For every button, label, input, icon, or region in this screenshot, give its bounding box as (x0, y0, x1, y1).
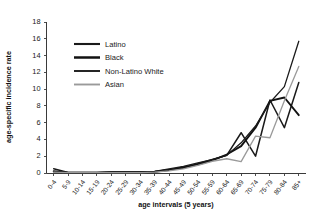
x-tick-label: 35-39 (143, 178, 159, 196)
y-axis-title: age-specific incidence rate (4, 51, 13, 143)
x-tick-label: 0-4 (46, 178, 58, 190)
y-tick-label: 6 (36, 118, 40, 127)
x-tick-label: 65-69 (229, 178, 245, 196)
x-tick-label: 45-49 (171, 178, 187, 196)
x-tick-label: 60-64 (215, 178, 231, 196)
x-tick-label: 20-24 (99, 178, 115, 196)
y-tick-label: 8 (36, 101, 40, 110)
x-tick-label: 85+ (290, 178, 302, 191)
x-tick-label: 80-84 (272, 178, 288, 196)
y-tick-label: 0 (36, 168, 40, 177)
x-axis-ticks: 0-45-910-1415-1920-2425-2930-3435-3940-4… (46, 173, 303, 196)
y-tick-label: 12 (32, 67, 40, 76)
chart-legend: LatinoBlackNon-Latino WhiteAsian (74, 40, 164, 90)
x-tick-label: 50-54 (186, 178, 202, 196)
x-tick-label: 75-79 (258, 178, 274, 196)
series-line-black (54, 98, 299, 173)
y-tick-label: 16 (32, 34, 40, 43)
x-tick-label: 5-9 (61, 178, 73, 190)
x-tick-label: 40-44 (157, 178, 173, 196)
y-tick-label: 10 (32, 84, 40, 93)
chart-figure: 024681012141618 0-45-910-1415-1920-2425-… (0, 0, 321, 221)
data-series-group (54, 41, 299, 172)
x-tick-label: 25-29 (114, 178, 130, 196)
x-tick-label: 55-59 (200, 178, 216, 196)
x-tick-label: 10-14 (70, 178, 86, 196)
series-line-latino (54, 82, 299, 172)
line-chart: 024681012141618 0-45-910-1415-1920-2425-… (0, 0, 321, 221)
series-line-non-latino-white (54, 41, 299, 172)
y-tick-label: 14 (32, 51, 40, 60)
y-tick-label: 2 (36, 151, 40, 160)
legend-label-asian: Asian (105, 80, 124, 89)
x-axis-title: age intervals (5 years) (138, 200, 214, 209)
x-tick-label: 30-34 (128, 178, 144, 196)
x-tick-label: 15-19 (85, 178, 101, 196)
series-line-asian (54, 66, 299, 172)
x-tick-label: 70-74 (243, 178, 259, 196)
legend-label-non-latino-white: Non-Latino White (105, 67, 164, 76)
y-tick-label: 4 (36, 134, 40, 143)
legend-label-latino: Latino (105, 40, 126, 49)
y-tick-label: 18 (32, 17, 40, 26)
legend-label-black: Black (105, 53, 124, 62)
y-axis-ticks: 024681012141618 (32, 17, 46, 177)
